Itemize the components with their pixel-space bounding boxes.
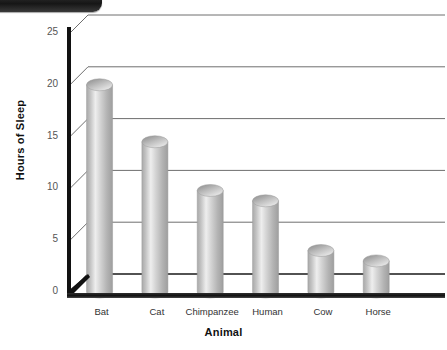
- gridline: [70, 119, 445, 137]
- bar-chimpanzee: [197, 184, 223, 298]
- bar-cap: [363, 255, 389, 267]
- bar-cap: [253, 195, 279, 207]
- x-axis-line: [67, 293, 445, 298]
- x-tick-label: Cow: [313, 306, 332, 317]
- bar-body: [197, 190, 223, 298]
- chart-canvas: Hours of Sleep Animal 0510152025 BatCatC…: [0, 0, 447, 350]
- x-tick-label: Chimpanzee: [186, 306, 239, 317]
- y-axis-line: [67, 27, 71, 295]
- bar-cap: [142, 136, 168, 148]
- x-tick-label: Bat: [94, 306, 108, 317]
- bar-body: [142, 142, 168, 298]
- bar-cap: [308, 245, 334, 257]
- y-tick-label: 20: [32, 78, 58, 89]
- bar-cap: [87, 79, 113, 91]
- bar-body: [253, 201, 279, 298]
- y-tick-label: 15: [32, 130, 58, 141]
- y-tick-label: 0: [32, 285, 58, 296]
- y-axis-title: Hours of Sleep: [14, 92, 26, 188]
- y-tick-label: 25: [32, 26, 58, 37]
- bar-chart-graphic: [0, 0, 447, 350]
- bar-body: [87, 85, 113, 298]
- y-tick-label: 5: [32, 233, 58, 244]
- bar-bat: [87, 79, 113, 298]
- bar-cow: [308, 245, 334, 298]
- x-tick-label: Human: [252, 306, 283, 317]
- gridline: [70, 15, 445, 33]
- x-axis-title: Animal: [0, 326, 447, 338]
- gridline: [70, 67, 445, 85]
- bar-cat: [142, 136, 168, 298]
- bar-horse: [363, 255, 389, 298]
- gridline: [70, 170, 445, 188]
- bar-cap: [197, 184, 223, 196]
- x-tick-label: Horse: [366, 306, 391, 317]
- x-tick-label: Cat: [149, 306, 164, 317]
- bar-human: [253, 195, 279, 298]
- bar-body: [308, 251, 334, 298]
- y-tick-label: 10: [32, 181, 58, 192]
- bars-group: [87, 79, 390, 298]
